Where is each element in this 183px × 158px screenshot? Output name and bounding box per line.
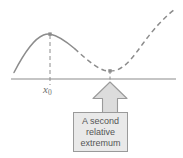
math-graph-figure: x0 A second relative extremum [0,0,183,158]
callout-line-3: extremum [80,138,120,149]
curve-solid-branch [14,34,75,72]
callout-arrow-icon [93,82,127,113]
callout-line-1: A second [82,116,119,127]
callout-line-2: relative [86,127,115,138]
curve-dashed-branch [75,9,177,72]
callout-box: A second relative extremum [73,112,128,152]
x-naught-subscript: 0 [48,88,52,97]
relative-minimum-marker [108,69,111,72]
x-naught-axis-label: x0 [43,84,52,95]
relative-maximum-marker [48,32,51,35]
